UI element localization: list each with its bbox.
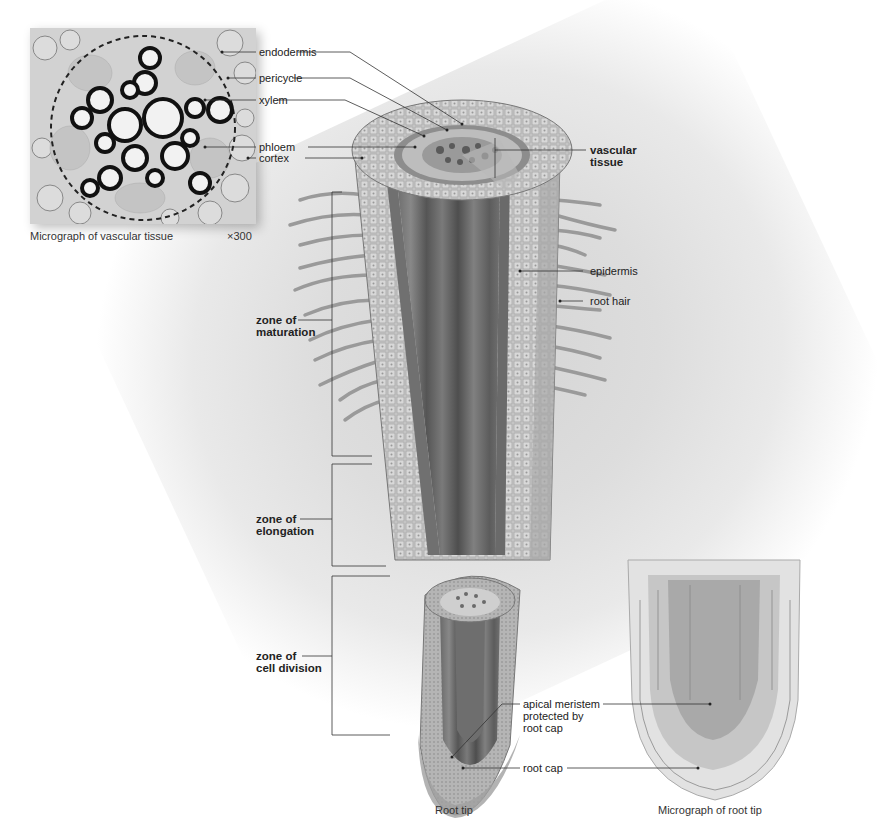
label-zone-cell-division-line1: zone of (256, 650, 296, 662)
label-pericycle: pericycle (259, 72, 302, 84)
root-tip-micrograph (628, 560, 800, 800)
label-root-cap: root cap (523, 762, 563, 774)
label-apical-meristem-line3: root cap (523, 722, 563, 734)
label-zone-cell-division-line2: cell division (256, 662, 322, 674)
label-epidermis: epidermis (590, 265, 638, 277)
label-root-hair: root hair (590, 295, 630, 307)
label-apical-meristem-line1: apical meristem (523, 698, 600, 710)
label-zone-maturation-line2: maturation (256, 326, 315, 338)
label-endodermis: endodermis (259, 46, 316, 58)
label-vascular-tissue-line2: tissue (590, 156, 623, 168)
label-xylem: xylem (259, 94, 288, 106)
label-apical-meristem-line2: protected by (523, 710, 584, 722)
label-zone-elongation-line2: elongation (256, 525, 314, 537)
root-tip-micrograph-caption: Micrograph of root tip (658, 804, 762, 816)
label-zone-maturation-line1: zone of (256, 314, 296, 326)
label-vascular-tissue-line1: vascular (590, 144, 637, 156)
label-zone-elongation-line1: zone of (256, 513, 296, 525)
label-cortex: cortex (259, 152, 289, 164)
root-tip-caption: Root tip (435, 804, 473, 816)
